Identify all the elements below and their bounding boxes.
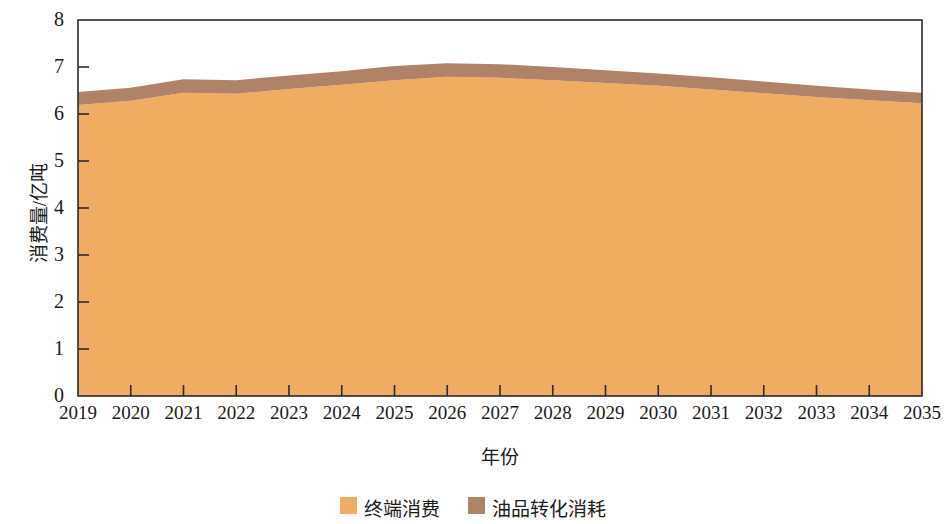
legend-item[interactable]: 油品转化消耗 — [468, 494, 606, 521]
legend-item[interactable]: 终端消费 — [340, 494, 440, 521]
x-axis-tick-label: 2030 — [631, 402, 685, 424]
y-axis-tick-label: 5 — [36, 150, 64, 170]
y-axis-tick-label: 2 — [36, 291, 64, 311]
x-axis-tick-label: 2031 — [684, 402, 738, 424]
x-axis-tick-label: 2025 — [368, 402, 422, 424]
x-axis-tick-label: 2034 — [842, 402, 896, 424]
x-axis-tick-label: 2024 — [315, 402, 369, 424]
legend-item-label: 油品转化消耗 — [492, 494, 606, 521]
series-area-terminal-consumption — [78, 77, 922, 396]
x-axis-tick-label: 2022 — [209, 402, 263, 424]
y-axis-tick-label: 1 — [36, 338, 64, 358]
y-axis-tick-label: 4 — [36, 197, 64, 217]
x-axis-tick-label: 2019 — [51, 402, 105, 424]
area-chart: 消费量/亿吨 012345678 20192020202120222023202… — [0, 0, 945, 524]
x-axis-title: 年份 — [78, 442, 922, 469]
chart-legend: 终端消费油品转化消耗 — [0, 494, 945, 521]
y-axis-tick-label: 8 — [36, 9, 64, 29]
x-axis-tick-label: 2033 — [790, 402, 844, 424]
legend-swatch-icon — [340, 497, 357, 514]
y-axis-tick-label: 3 — [36, 244, 64, 264]
x-axis-tick-label: 2026 — [420, 402, 474, 424]
x-axis-tick-label: 2028 — [526, 402, 580, 424]
x-axis-tick-label: 2029 — [579, 402, 633, 424]
legend-swatch-icon — [468, 497, 485, 514]
x-axis-tick-label: 2021 — [157, 402, 211, 424]
x-axis-tick-label: 2027 — [473, 402, 527, 424]
x-axis-tick-label: 2035 — [895, 402, 945, 424]
y-axis-tick-label: 6 — [36, 103, 64, 123]
x-axis-tick-label: 2023 — [262, 402, 316, 424]
x-axis-tick-label: 2020 — [104, 402, 158, 424]
y-axis-tick-label: 7 — [36, 56, 64, 76]
x-axis-tick-label: 2032 — [737, 402, 791, 424]
legend-item-label: 终端消费 — [364, 494, 440, 521]
